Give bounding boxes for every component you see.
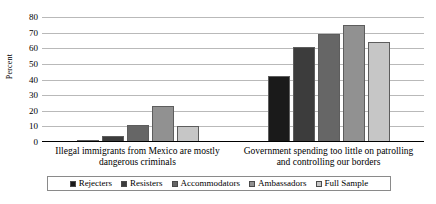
bar-rejecters[interactable] — [268, 76, 290, 142]
y-tick-10: 10 — [29, 122, 38, 131]
bar-group-2 — [233, 17, 424, 142]
legend-item-rejecters[interactable]: Rejecters — [70, 179, 112, 188]
plot-area — [42, 17, 424, 142]
legend-label-ambassadors: Ambassadors — [258, 179, 307, 188]
bar-group-1 — [42, 17, 233, 142]
chart-legend: RejectersResistersAccommodatorsAmbassado… — [47, 176, 391, 191]
y-tick-70: 70 — [29, 28, 38, 37]
y-tick-30: 30 — [29, 91, 38, 100]
legend-swatch-resisters — [121, 181, 127, 187]
legend-swatch-ambassadors — [249, 181, 255, 187]
x-axis-line — [42, 141, 424, 142]
bar-accommodators[interactable] — [318, 34, 340, 142]
bar-chart: Percent 80706050403020100 Illegal immigr… — [0, 0, 436, 204]
y-axis-tick-labels: 80706050403020100 — [16, 12, 38, 146]
y-tick-60: 60 — [29, 44, 38, 53]
y-tick-40: 40 — [29, 75, 38, 84]
legend-item-resisters[interactable]: Resisters — [121, 179, 163, 188]
legend-item-ambassadors[interactable]: Ambassadors — [249, 179, 307, 188]
legend-item-accommodators[interactable]: Accommodators — [172, 179, 240, 188]
legend-label-resisters: Resisters — [130, 179, 163, 188]
legend-swatch-full-sample — [316, 181, 322, 187]
y-tick-20: 20 — [29, 106, 38, 115]
x-axis-category-labels: Illegal immigrants from Mexico are mostl… — [42, 146, 424, 168]
bar-resisters[interactable] — [293, 47, 315, 142]
legend-item-full-sample[interactable]: Full Sample — [316, 179, 369, 188]
legend-label-accommodators: Accommodators — [181, 179, 240, 188]
y-axis-title: Percent — [5, 37, 14, 97]
y-tick-80: 80 — [29, 13, 38, 22]
bar-full-sample[interactable] — [368, 42, 390, 142]
legend-swatch-rejecters — [70, 181, 76, 187]
legend-swatch-accommodators — [172, 181, 178, 187]
legend-label-full-sample: Full Sample — [325, 179, 369, 188]
bar-groups — [42, 17, 424, 142]
legend-label-rejecters: Rejecters — [79, 179, 112, 188]
category-label-2: Government spending too little on patrol… — [233, 146, 424, 168]
y-tick-50: 50 — [29, 59, 38, 68]
bar-accommodators[interactable] — [127, 125, 149, 142]
bar-full-sample[interactable] — [177, 126, 199, 142]
bar-ambassadors[interactable] — [152, 106, 174, 142]
bar-ambassadors[interactable] — [343, 25, 365, 142]
y-tick-0: 0 — [34, 138, 39, 147]
category-label-1: Illegal immigrants from Mexico are mostl… — [42, 146, 233, 168]
